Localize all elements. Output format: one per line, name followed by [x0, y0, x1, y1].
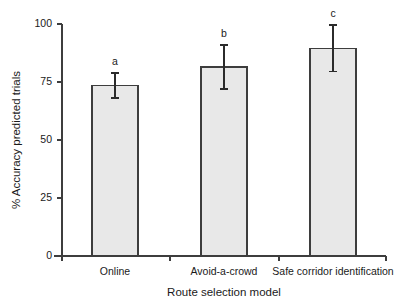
bar-2[interactable]	[201, 67, 247, 256]
group-letter-3: c	[330, 7, 335, 19]
x-axis-title: Route selection model	[167, 286, 281, 298]
y-tick-label: 50	[40, 133, 52, 145]
bar-1[interactable]	[92, 85, 138, 256]
x-tick-label-2: Avoid-a-crowd	[191, 265, 258, 277]
x-tick-label-3: Safe corridor identification	[272, 265, 394, 277]
group-letter-1: a	[112, 55, 118, 67]
y-tick-label: 25	[40, 191, 52, 203]
x-tick-label-1: Online	[100, 265, 131, 277]
bar-chart: 0255075100aOnlinebAvoid-a-crowdcSafe cor…	[0, 0, 407, 305]
y-axis-title: % Accuracy predicted trials	[10, 71, 22, 209]
figure-container: 0255075100aOnlinebAvoid-a-crowdcSafe cor…	[0, 0, 407, 305]
bar-3[interactable]	[310, 48, 356, 256]
group-letter-2: b	[221, 27, 227, 39]
y-tick-label: 100	[34, 17, 52, 29]
y-tick-label: 75	[40, 75, 52, 87]
y-tick-label: 0	[46, 249, 52, 261]
